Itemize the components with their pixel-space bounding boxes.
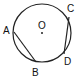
center-dot — [41, 32, 43, 34]
label-b: B — [32, 67, 39, 78]
label-o: O — [38, 20, 46, 31]
label-d: D — [64, 56, 71, 67]
chord-ab — [14, 32, 36, 62]
circle-diagram: O A B C D — [0, 0, 75, 81]
label-c: C — [67, 3, 74, 14]
diagram: O A B C D — [0, 0, 75, 81]
label-a: A — [3, 25, 10, 36]
